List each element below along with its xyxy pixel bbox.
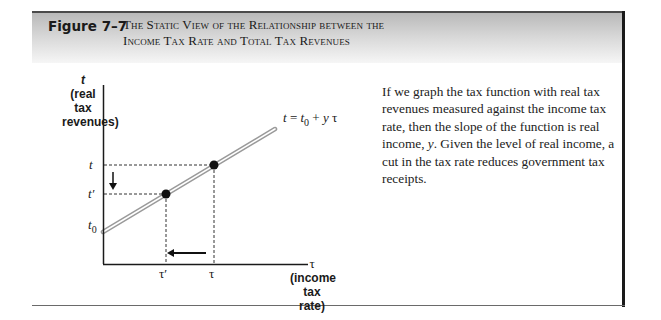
point-upper: [210, 161, 219, 170]
eq-tau: τ: [332, 110, 337, 125]
y-tick-t-prime: t′: [88, 186, 94, 202]
eq-equals: =: [287, 110, 301, 125]
x-axis-symbol: τ: [290, 257, 334, 271]
tax-function-line: [103, 129, 275, 232]
tax-function-equation: t = t0 + y τ: [283, 110, 337, 128]
eq-plus: +: [309, 110, 323, 125]
x-axis-label-line-2: tax rate): [290, 285, 334, 313]
y-axis-label: t (real tax revenues): [62, 73, 104, 129]
dashed-guides: [104, 165, 214, 264]
x-axis-label-line-1: (income: [290, 271, 334, 285]
arrow-left-icon: [167, 249, 206, 257]
y-tick-t0: t0: [88, 217, 97, 235]
y-tick-t: t: [89, 157, 93, 173]
point-lower: [162, 190, 171, 199]
y-axis-symbol: t: [62, 73, 104, 87]
figure-caption: If we graph the tax function with real t…: [382, 83, 622, 187]
y-axis-label-line-1: (real tax: [62, 87, 104, 115]
x-tick-tau: τ: [209, 266, 214, 282]
x-tick-tau-prime: τ′: [159, 266, 167, 282]
x-axis-label: τ (income tax rate): [290, 257, 334, 313]
t0-subscript: 0: [92, 224, 97, 235]
arrow-down-icon: [109, 172, 117, 190]
y-axis-label-line-2: revenues): [62, 115, 104, 129]
eq-y: y: [323, 110, 329, 125]
